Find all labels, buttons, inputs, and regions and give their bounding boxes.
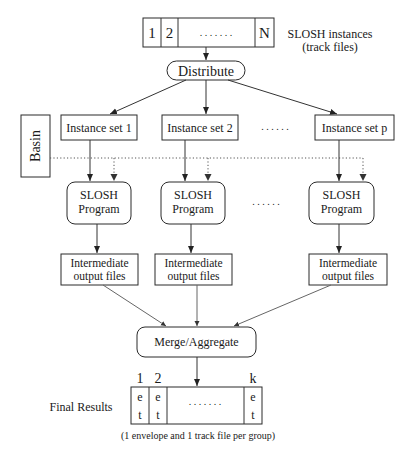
slosh-program-2: SLOSH Program	[161, 182, 225, 224]
instance-cell-ellipsis: . . . . . . .	[200, 27, 233, 38]
intermediate-output-p: Intermediate output files	[309, 254, 387, 285]
intermediate-2-line2: output files	[167, 270, 220, 283]
program-p-line2: Program	[321, 202, 363, 216]
arrow-output-1-to-merge	[103, 285, 166, 326]
instance-cell-1: 1	[148, 25, 156, 41]
instances-sublabel: (track files)	[302, 40, 358, 54]
instance-set-2-label: Instance set 2	[167, 121, 232, 135]
intermediate-2-line1: Intermediate	[164, 257, 222, 269]
program-2-line1: SLOSH	[174, 188, 212, 202]
instance-set-p-label: Instance set p	[322, 121, 387, 135]
arrow-output-p-to-merge	[234, 285, 331, 326]
basin-label: Basin	[28, 130, 43, 162]
slosh-program-1: SLOSH Program	[67, 182, 131, 224]
instance-set-1: Instance set 1	[61, 115, 137, 140]
programs-ellipsis: . . . . . .	[252, 196, 280, 207]
final-cells-ellipsis: . . . . . . .	[189, 396, 222, 407]
intermediate-output-1: Intermediate output files	[61, 254, 138, 285]
arrow-distribute-to-set-1	[110, 80, 186, 114]
merge-label: Merge/Aggregate	[154, 335, 238, 349]
instance-set-p: Instance set p	[315, 115, 394, 140]
slosh-workflow-diagram: 1 2 . . . . . . . N SLOSH instances (tra…	[0, 0, 410, 454]
program-1-line1: SLOSH	[80, 188, 118, 202]
instances-label: SLOSH instances	[288, 27, 373, 41]
program-2-line2: Program	[172, 202, 214, 216]
arrow-distribute-to-set-p	[228, 80, 337, 114]
program-p-line1: SLOSH	[322, 188, 360, 202]
basin-node: Basin	[21, 115, 50, 177]
slosh-program-p: SLOSH Program	[309, 182, 374, 224]
intermediate-p-line1: Intermediate	[319, 257, 377, 269]
merge-aggregate-node: Merge/Aggregate	[137, 327, 256, 357]
instance-set-1-label: Instance set 1	[66, 121, 131, 135]
intermediate-output-2: Intermediate output files	[155, 254, 232, 285]
final-results-label: Final Results	[49, 400, 112, 414]
program-1-line2: Program	[78, 202, 120, 216]
instance-cell-n: N	[259, 25, 270, 41]
intermediate-1-line1: Intermediate	[70, 257, 128, 269]
final-index-1: 1	[137, 371, 144, 386]
final-cell-1-envelope: e	[137, 390, 142, 404]
final-cell-2-envelope: e	[155, 390, 160, 404]
final-index-k: k	[250, 371, 257, 386]
intermediate-p-line2: output files	[322, 270, 375, 283]
final-cell-k-envelope: e	[250, 390, 255, 404]
instance-sets-ellipsis: . . . . . .	[261, 121, 289, 132]
distribute-label: Distribute	[178, 64, 234, 79]
slosh-instances-array: 1 2 . . . . . . . N	[143, 18, 274, 47]
instance-cell-2: 2	[166, 25, 174, 41]
distribute-node: Distribute	[167, 61, 245, 80]
final-results-array: e t e t . . . . . . . e t	[131, 387, 262, 424]
instance-set-2: Instance set 2	[162, 115, 238, 140]
final-index-2: 2	[155, 371, 162, 386]
final-results-caption: (1 envelope and 1 track file per group)	[121, 430, 275, 442]
intermediate-1-line2: output files	[73, 270, 126, 283]
